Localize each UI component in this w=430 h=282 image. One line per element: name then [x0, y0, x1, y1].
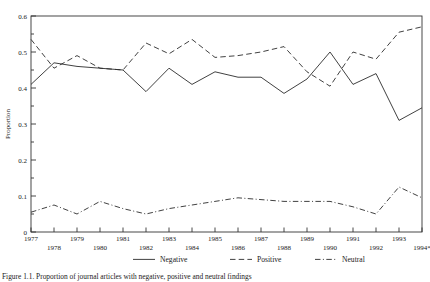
- x-axis-tick-label: 1989: [300, 235, 315, 243]
- x-axis-tick-label: 1983: [162, 235, 177, 243]
- x-axis-tick-label: 1991: [346, 235, 361, 243]
- x-axis-tick-label: 1988: [277, 244, 292, 252]
- x-axis-tick-label: 1984: [185, 244, 200, 252]
- y-axis-title: Proportion: [4, 109, 12, 139]
- y-axis-tick-label: 0.5: [18, 49, 27, 57]
- y-axis-tick-label: 0.6: [18, 13, 27, 21]
- x-axis-tick-label: 1985: [208, 235, 223, 243]
- x-axis-tick-label: 1978: [47, 244, 62, 252]
- x-axis-tick-label: 1993: [392, 235, 407, 243]
- legend-label-negative: Negative: [160, 255, 188, 264]
- x-axis-tick-label: 1979: [70, 235, 85, 243]
- figure-caption: Figure 1.1. Proportion of journal articl…: [2, 272, 430, 281]
- series-line-neutral: [31, 187, 422, 214]
- legend-label-neutral: Neutral: [342, 255, 365, 264]
- x-axis-tick-label: 1992: [369, 244, 384, 252]
- y-axis-tick-label: 0.1: [18, 193, 27, 201]
- x-axis-tick-label: 1980: [93, 244, 108, 252]
- x-axis-tick-label: 1981: [116, 235, 131, 243]
- x-axis-tick-label: 1977: [24, 235, 39, 243]
- legend-label-positive: Positive: [257, 255, 282, 264]
- x-axis-tick-label: 1990: [323, 244, 338, 252]
- figure-container: 00.10.20.30.40.50.6Proportion19771978197…: [0, 0, 430, 282]
- y-axis-tick-label: 0.4: [18, 85, 27, 93]
- line-chart: 00.10.20.30.40.50.6Proportion19771978197…: [0, 0, 430, 282]
- x-axis-tick-label: 1987: [254, 235, 269, 243]
- series-line-positive: [31, 27, 422, 86]
- series-line-negative: [31, 52, 422, 120]
- x-axis-tick-label: 1982: [139, 244, 154, 252]
- x-axis-tick-label: 1986: [231, 244, 246, 252]
- y-axis-tick-label: 0.2: [18, 157, 27, 165]
- x-axis-tick-label: 1994*: [413, 244, 430, 252]
- y-axis-tick-label: 0.3: [18, 121, 27, 129]
